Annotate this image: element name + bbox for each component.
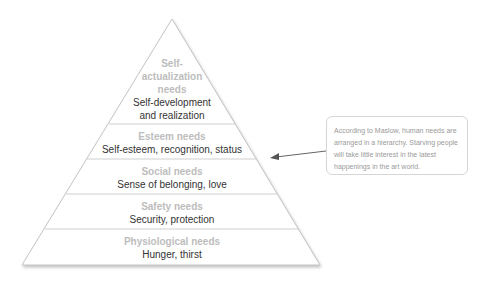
level-detail: Sense of belonging, love [22,178,322,191]
level-detail: Security, protection [22,213,322,226]
level-heading-line: Self- [22,57,322,70]
level-esteem: Esteem needs Self-esteem, recognition, s… [22,130,322,156]
level-heading-line: actualization [22,70,322,83]
level-detail: Self-esteem, recognition, status [22,143,322,156]
level-detail: Hunger, thirst [22,248,322,261]
level-heading: Social needs [22,165,322,178]
level-physiological: Physiological needs Hunger, thirst [22,235,322,261]
level-detail-line: and realization [22,109,322,122]
level-detail-line: Self-development [22,96,322,109]
level-self-actualization: Self- actualization needs Self-developme… [22,57,322,122]
callout-text: According to Maslow, human needs are arr… [334,127,458,170]
level-heading-line: needs [22,83,322,96]
level-heading: Physiological needs [22,235,322,248]
callout-box: According to Maslow, human needs are arr… [326,116,468,175]
level-heading: Safety needs [22,200,322,213]
level-safety: Safety needs Security, protection [22,200,322,226]
level-social: Social needs Sense of belonging, love [22,165,322,191]
level-heading: Esteem needs [22,130,322,143]
